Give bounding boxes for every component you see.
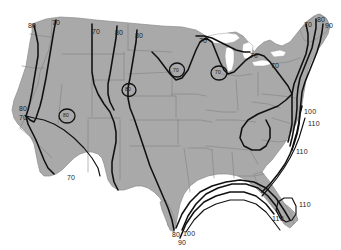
contour-label-north-70b: 70 [199,37,207,44]
contour-label-southwest-70: 70 [67,174,75,181]
contour-label-nw-70: 70 [52,19,60,26]
closed-contour-label-colorado-closed: 80 [125,87,131,92]
closed-contour-label-iowa-closed: 70 [215,70,221,75]
contour-label-ne-corner-90: 90 [325,22,333,29]
contour-label-north-80b: 80 [135,32,143,39]
contour-map-container: 8070708080707070708090807070100110110110… [0,0,341,250]
contour-label-texas-90: 90 [178,239,186,246]
closed-contour-label-nevada-closed: 80 [63,113,69,118]
contour-label-ne-corner-70: 70 [304,21,312,28]
contour-label-north-70: 70 [92,28,100,35]
us-landmass [12,14,330,230]
contour-label-midatl-110a: 110 [308,120,320,127]
contour-label-greatlakes-70: 70 [250,52,258,59]
contour-label-north-80a: 80 [115,29,123,36]
contour-label-texas-100: 100 [183,230,195,237]
contour-label-midatl-110b: 110 [296,148,308,155]
contour-label-florida-110a: 110 [299,201,311,208]
contour-label-west-80: 80 [19,105,27,112]
contour-label-nw-80: 80 [28,22,36,29]
contour-label-texas-80: 80 [172,231,180,238]
contour-label-west-70: 70 [19,114,27,121]
contour-label-ne-corner-80: 80 [317,16,325,23]
contour-label-florida-110b: 110 [272,215,284,222]
contour-label-midatl-100: 100 [304,108,316,115]
contour-label-northeast-70c: 70 [271,62,279,69]
closed-contour-label-dakota-closed: 70 [173,68,179,73]
us-contour-map-svg [0,0,341,250]
